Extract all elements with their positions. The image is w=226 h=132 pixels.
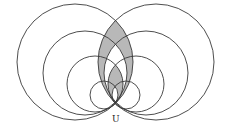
tangent-circles-diagram: U [0, 0, 226, 132]
point-label-u: U [112, 114, 120, 124]
